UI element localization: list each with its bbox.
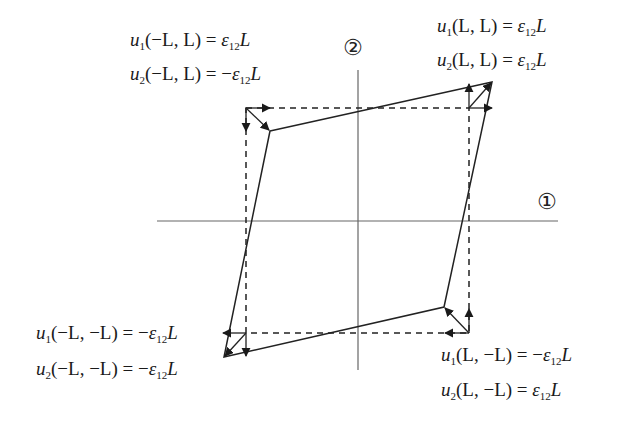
axis-1-label: ①	[537, 191, 557, 213]
equation-u2-top-left: u2(−L, L) = −ε12L	[130, 63, 261, 85]
equation-u2-top-right: u2(L, L) = ε12L	[437, 49, 547, 71]
axis-2-label: ②	[343, 37, 363, 59]
equation-u2-bottom-right: u2(L, −L) = ε12L	[441, 379, 561, 401]
corner-vectors-top-left	[246, 108, 270, 131]
equation-u1-bottom-right: u1(L, −L) = −ε12L	[441, 344, 572, 366]
equation-u1-bottom-left: u1(−L, −L) = −ε12L	[36, 322, 178, 344]
equation-u1-top-right: u1(L, L) = ε12L	[437, 15, 547, 37]
equation-u2-bottom-left: u2(−L, −L) = −ε12L	[36, 358, 178, 380]
equation-u1-top-left: u1(−L, L) = ε12L	[130, 29, 250, 51]
corner-vectors-bottom-right	[445, 308, 469, 333]
